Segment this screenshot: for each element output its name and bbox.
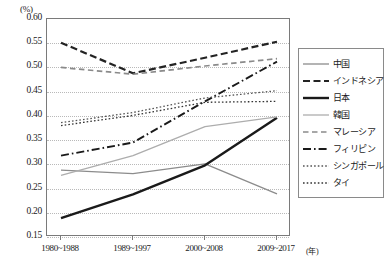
legend-item-label: シンガポール bbox=[333, 159, 383, 172]
legend-item-label: 韓国 bbox=[333, 108, 350, 121]
x-axis-unit-label: (年) bbox=[306, 245, 318, 256]
series-line bbox=[61, 91, 277, 123]
legend-item-label: インドネシア bbox=[333, 74, 383, 87]
figure-caption-fragment bbox=[0, 265, 388, 272]
x-axis-tick-mark bbox=[132, 236, 133, 240]
series-line bbox=[61, 59, 277, 75]
plot-area bbox=[46, 18, 290, 236]
x-axis-tick-label: 1980~1988 bbox=[41, 243, 78, 253]
legend-item[interactable]: マレーシア bbox=[303, 123, 379, 140]
y-axis-tick-label: 0.35 bbox=[0, 133, 42, 143]
chart-root: (%) 0.600.550.500.450.400.350.300.250.20… bbox=[0, 0, 388, 272]
y-axis-tick-label: 0.20 bbox=[0, 206, 42, 216]
x-axis-tick-mark bbox=[60, 236, 61, 240]
legend-item[interactable]: フィリピン bbox=[303, 140, 379, 157]
x-axis-tick-mark bbox=[276, 236, 277, 240]
series-line bbox=[61, 117, 277, 176]
legend-line-swatch-icon bbox=[303, 178, 329, 188]
gridline bbox=[47, 237, 289, 238]
legend-item[interactable]: タイ bbox=[303, 174, 379, 191]
y-axis-tick-label: 0.30 bbox=[0, 157, 42, 167]
x-axis-tick-label: 1989~1997 bbox=[113, 243, 150, 253]
y-axis-tick-label: 0.45 bbox=[0, 85, 42, 95]
series-line bbox=[61, 42, 277, 73]
x-axis-tick-label: 2000~2008 bbox=[185, 243, 222, 253]
x-axis-tick-mark bbox=[204, 236, 205, 240]
legend-item-label: マレーシア bbox=[333, 125, 375, 138]
legend: 中国インドネシア日本韓国マレーシアフィリピンシンガポールタイ bbox=[298, 48, 384, 198]
y-axis-tick-label: 0.60 bbox=[0, 12, 42, 22]
legend-line-swatch-icon bbox=[303, 59, 329, 69]
x-axis-tick-label: 2009~2017 bbox=[257, 243, 294, 253]
series-lines bbox=[47, 19, 291, 237]
legend-line-swatch-icon bbox=[303, 161, 329, 171]
series-line bbox=[61, 118, 277, 218]
y-axis-tick-label: 0.25 bbox=[0, 182, 42, 192]
legend-item[interactable]: インドネシア bbox=[303, 72, 379, 89]
legend-item[interactable]: 日本 bbox=[303, 89, 379, 106]
legend-item-label: 中国 bbox=[333, 57, 350, 70]
legend-line-swatch-icon bbox=[303, 110, 329, 120]
legend-item-label: フィリピン bbox=[333, 142, 375, 155]
legend-line-swatch-icon bbox=[303, 127, 329, 137]
legend-line-swatch-icon bbox=[303, 144, 329, 154]
legend-line-swatch-icon bbox=[303, 93, 329, 103]
legend-line-swatch-icon bbox=[303, 76, 329, 86]
legend-item[interactable]: 中国 bbox=[303, 55, 379, 72]
legend-item-label: タイ bbox=[333, 176, 350, 189]
y-axis-tick-label: 0.55 bbox=[0, 36, 42, 46]
y-axis-tick-label: 0.15 bbox=[0, 230, 42, 240]
legend-item[interactable]: シンガポール bbox=[303, 157, 379, 174]
legend-item[interactable]: 韓国 bbox=[303, 106, 379, 123]
y-axis-tick-label: 0.40 bbox=[0, 109, 42, 119]
y-axis-tick-label: 0.50 bbox=[0, 60, 42, 70]
legend-item-label: 日本 bbox=[333, 91, 350, 104]
